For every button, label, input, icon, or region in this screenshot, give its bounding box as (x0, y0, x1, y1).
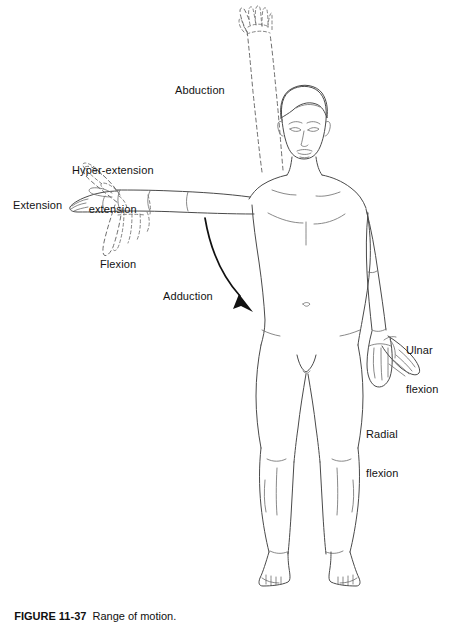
label-radial-flexion: Radial flexion (366, 402, 399, 506)
label-ulnar-flexion-line1: Ulnar (406, 344, 439, 357)
label-ulnar-flexion-line2: flexion (406, 383, 439, 396)
label-hyper-extension-line2: extension (72, 203, 154, 216)
label-flexion: Flexion (100, 258, 136, 271)
label-abduction: Abduction (175, 84, 225, 97)
torso (249, 157, 370, 345)
label-ulnar-flexion: Ulnar flexion (406, 318, 439, 422)
label-adduction: Adduction (163, 290, 213, 303)
label-extension: Extension (13, 199, 62, 212)
figure-caption-number: FIGURE 11-37 (14, 610, 86, 622)
head (278, 85, 331, 159)
abducted-hand-dashed (239, 6, 272, 32)
figure-caption: FIGURE 11-37 Range of motion. (2, 597, 176, 626)
figure-caption-text: Range of motion. (93, 610, 177, 622)
abducted-arm-dashed (247, 30, 283, 172)
hand-radial-flexion (367, 331, 395, 387)
label-radial-flexion-line2: flexion (366, 467, 399, 480)
label-radial-flexion-line1: Radial (366, 428, 399, 441)
legs (256, 345, 363, 554)
label-hyper-extension: Hyper-extension extension (72, 138, 154, 242)
label-hyper-extension-line1: Hyper-extension (72, 164, 154, 177)
feet (259, 552, 360, 586)
